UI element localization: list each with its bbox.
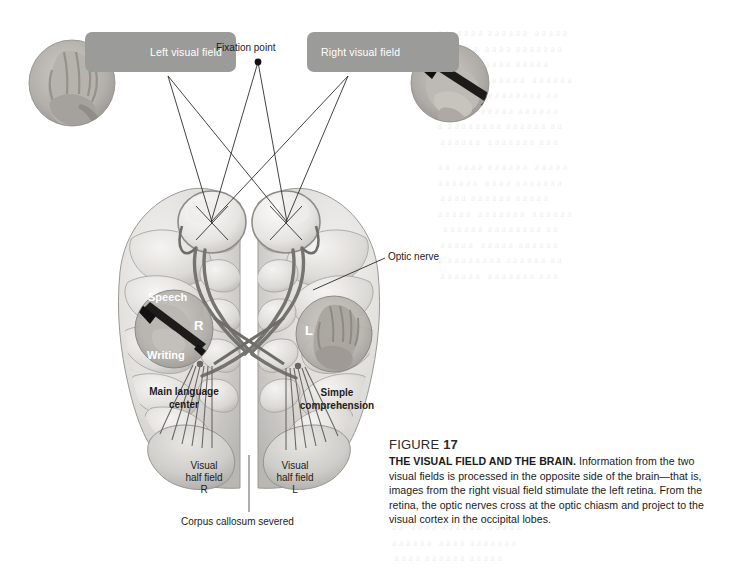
left-visual-field-label: Left visual field (150, 46, 222, 58)
visual-half-field-l-label: Visual half field L (264, 460, 326, 496)
right-visual-field-banner: Right visual field (307, 32, 459, 72)
speech-label: Speech (148, 291, 187, 303)
simple-comprehension-label: Simple comprehension (292, 387, 382, 412)
simple-comprehension-line1: Simple (321, 387, 354, 398)
visual-half-field-l-line2: half field (276, 472, 313, 483)
hemisphere-r-letter: R (194, 318, 203, 333)
hemisphere-l-letter: L (305, 323, 313, 338)
figure-number-line: FIGURE 17 (389, 437, 709, 452)
writing-label: Writing (147, 349, 185, 361)
main-language-center-line1: Main language (149, 386, 218, 397)
visual-half-field-l-line3: L (292, 484, 298, 495)
simple-comprehension-line2: comprehension (300, 400, 374, 411)
figure-caption-title: THE VISUAL FIELD AND THE BRAIN. (389, 455, 576, 467)
hand-photo-overlay (313, 305, 358, 371)
optic-nerve-label: Optic nerve (388, 251, 439, 262)
fiber-node-left (295, 363, 301, 369)
fiber-node-right (197, 361, 203, 367)
visual-half-field-r-line3: R (200, 484, 207, 495)
figure-word: FIGURE (389, 437, 439, 452)
figure-canvas: a a a a a a a a a a a a a a a a a a a a … (0, 0, 738, 577)
fixation-point-label: Fixation point (216, 42, 275, 53)
visual-half-field-r-line1: Visual (190, 460, 217, 471)
main-language-center-label: Main language center (140, 386, 228, 411)
figure-caption-body: THE VISUAL FIELD AND THE BRAIN. Informat… (389, 454, 709, 527)
main-language-center-line2: center (169, 399, 199, 410)
visual-half-field-r-line2: half field (185, 472, 222, 483)
fixation-point-dot (255, 59, 262, 66)
visual-half-field-r-label: Visual half field R (173, 460, 235, 496)
figure-caption: FIGURE 17 THE VISUAL FIELD AND THE BRAIN… (389, 437, 709, 527)
figure-number: 17 (443, 437, 458, 452)
corpus-callosum-severed-label: Corpus callosum severed (181, 516, 294, 527)
right-visual-field-label: Right visual field (321, 46, 400, 58)
visual-half-field-l-line1: Visual (281, 460, 308, 471)
left-visual-field-banner: Left visual field (85, 32, 236, 72)
